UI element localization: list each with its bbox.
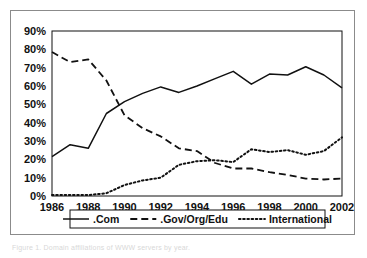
data-series-layer — [52, 52, 342, 195]
y-tick-label: 50% — [24, 98, 46, 110]
chart-legend: .Com.Gov/Org/EduInternational — [63, 210, 332, 228]
figure-root: 0%10%20%30%40%50%60%70%80%90% 1986198819… — [0, 0, 367, 258]
y-tick-label: 70% — [24, 62, 46, 74]
y-tick-label: 90% — [24, 25, 46, 37]
legend-label-1: .Com — [93, 213, 119, 225]
y-tick-label: 60% — [24, 80, 46, 92]
plot-area-border — [52, 31, 342, 196]
y-tick-label: 10% — [24, 172, 46, 184]
x-tick-label: 2002 — [330, 201, 354, 213]
y-tick-label: 80% — [24, 43, 46, 55]
series-line — [52, 137, 342, 195]
legend-label-2: .Gov/Org/Edu — [160, 213, 228, 225]
y-tick-label: 40% — [24, 117, 46, 129]
legend-label-3: International — [269, 213, 332, 225]
x-tick-label: 1986 — [40, 201, 64, 213]
figure-caption: Figure 1. Domain affiliations of WWW ser… — [12, 243, 352, 252]
series-line — [52, 67, 342, 157]
line-chart: 0%10%20%30%40%50%60%70%80%90% 1986198819… — [0, 0, 367, 258]
y-tick-label: 20% — [24, 153, 46, 165]
y-axis-tick-labels: 0%10%20%30%40%50%60%70%80%90% — [24, 25, 46, 202]
y-tick-label: 30% — [24, 135, 46, 147]
